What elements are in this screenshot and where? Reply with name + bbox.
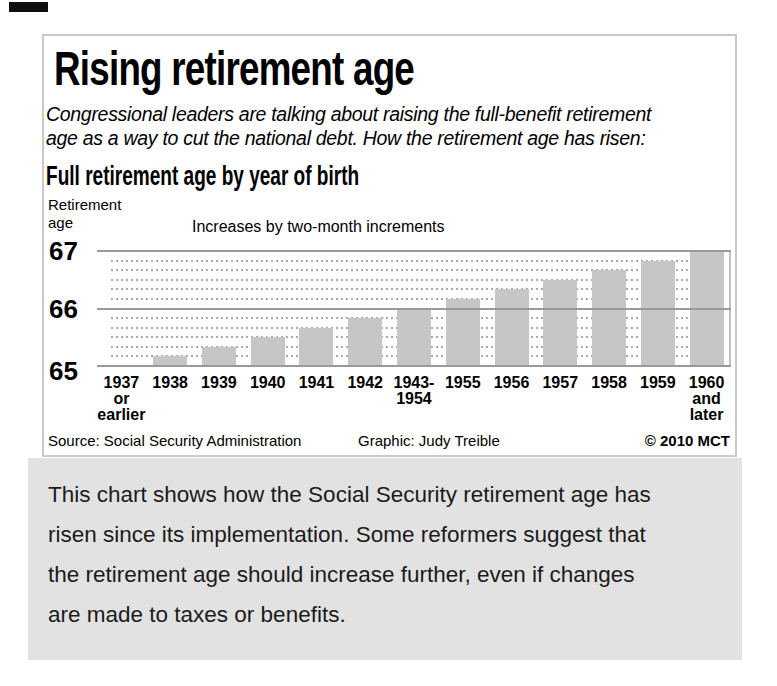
x-tick-line: 1957 xyxy=(536,375,585,391)
x-tick-label: 1957 xyxy=(536,375,585,423)
x-tick-line: 1955 xyxy=(438,375,487,391)
subtitle-line-2: age as a way to cut the national debt. H… xyxy=(46,127,646,150)
x-tick-line: 1960 xyxy=(682,375,731,391)
caption-panel: This chart shows how the Social Security… xyxy=(28,458,742,660)
y-axis-title-line-1: Retirement xyxy=(48,196,121,213)
gridline-dotted xyxy=(111,288,723,290)
gridline-solid xyxy=(97,308,731,310)
x-tick-label: 1956 xyxy=(487,375,536,423)
bar-1942 xyxy=(348,318,382,366)
copyright-note: © 2010 MCT xyxy=(645,432,730,449)
x-tick-line: 1959 xyxy=(633,375,682,391)
caption-line-1: This chart shows how the Social Security… xyxy=(48,475,651,515)
x-tick-label: 1960andlater xyxy=(682,375,731,423)
chart-annotation: Increases by two-month increments xyxy=(192,218,445,236)
scan-artifact-mark xyxy=(9,2,48,12)
x-tick-label: 1942 xyxy=(341,375,390,423)
x-tick-label: 1940 xyxy=(243,375,292,423)
x-tick-line: 1940 xyxy=(243,375,292,391)
x-tick-line: 1958 xyxy=(585,375,634,391)
x-tick-line: and xyxy=(682,391,731,407)
y-tick-67: 67 xyxy=(30,238,78,264)
x-tick-label: 1939 xyxy=(195,375,244,423)
bar-1959 xyxy=(641,261,675,366)
infographic-page: Rising retirement age Congressional lead… xyxy=(0,0,777,686)
subtitle-line-1: Congressional leaders are talking about … xyxy=(46,103,651,126)
bar-1939 xyxy=(202,347,236,366)
bar-1957 xyxy=(543,280,577,366)
main-title: Rising retirement age xyxy=(54,40,414,96)
plot-area xyxy=(97,251,731,366)
graphic-credit: Graphic: Judy Treible xyxy=(358,432,500,449)
x-tick-line: 1954 xyxy=(390,391,439,407)
source-note: Source: Social Security Administration xyxy=(48,432,301,449)
bar-1956 xyxy=(495,289,529,366)
bar-1958 xyxy=(592,270,626,366)
x-tick-label: 1958 xyxy=(585,375,634,423)
gridline-dotted xyxy=(111,279,723,281)
x-tick-line: 1938 xyxy=(146,375,195,391)
caption-line-2: risen since its implementation. Some ref… xyxy=(48,515,646,555)
x-tick-label: 1943-1954 xyxy=(390,375,439,423)
x-axis-labels: 1937orearlier193819391940194119421943-19… xyxy=(97,375,731,423)
x-tick-label: 1959 xyxy=(633,375,682,423)
x-tick-line: 1942 xyxy=(341,375,390,391)
caption-line-4: are made to taxes or benefits. xyxy=(48,595,346,635)
bar-1941 xyxy=(299,328,333,366)
x-tick-label: 1938 xyxy=(146,375,195,423)
x-tick-line: 1937 xyxy=(97,375,146,391)
y-axis-ticks: 676665 xyxy=(30,251,78,366)
x-tick-label: 1937orearlier xyxy=(97,375,146,423)
bar-1943-1954 xyxy=(397,309,431,367)
x-tick-label: 1941 xyxy=(292,375,341,423)
x-tick-line: later xyxy=(682,407,731,423)
x-tick-line: 1956 xyxy=(487,375,536,391)
gridline-solid xyxy=(97,365,731,367)
y-axis-title-line-2: age xyxy=(48,214,73,231)
x-tick-line: earlier xyxy=(97,407,146,423)
gridline-dotted xyxy=(111,260,723,262)
bar-1940 xyxy=(251,337,285,366)
gridline-dotted xyxy=(111,269,723,271)
gridline-solid xyxy=(97,250,731,252)
chart-heading: Full retirement age by year of birth xyxy=(46,160,359,192)
y-tick-66: 66 xyxy=(30,296,78,322)
x-tick-line: 1943- xyxy=(390,375,439,391)
x-tick-line: or xyxy=(97,391,146,407)
x-tick-line: 1939 xyxy=(195,375,244,391)
x-tick-label: 1955 xyxy=(438,375,487,423)
x-tick-line: 1941 xyxy=(292,375,341,391)
y-tick-65: 65 xyxy=(30,358,78,384)
gridline-dotted xyxy=(111,298,723,300)
caption-line-3: the retirement age should increase furth… xyxy=(48,555,635,595)
